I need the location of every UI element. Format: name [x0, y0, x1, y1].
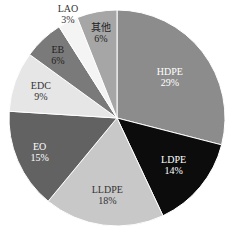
slice-percent: 6%: [51, 55, 64, 66]
slice-percent: 18%: [98, 195, 116, 206]
slice-label: 其他: [91, 21, 111, 33]
slice-label: EB: [52, 44, 65, 55]
slice-label: LDPE: [161, 154, 186, 165]
slice-percent: 15%: [31, 152, 49, 163]
slice-percent: 3%: [61, 14, 74, 25]
slice-label: LAO: [58, 3, 79, 14]
slice-label: LLDPE: [92, 184, 123, 195]
pie-chart: HDPE29%LDPE14%LLDPE18%EO15%EDC9%EB6%LAO3…: [0, 0, 234, 233]
slice-label: HDPE: [157, 66, 183, 77]
slice-percent: 14%: [164, 165, 182, 176]
slice-label: EO: [33, 141, 46, 152]
slice-label: EDC: [31, 80, 51, 91]
slice-percent: 6%: [94, 33, 107, 44]
slice-percent: 29%: [161, 77, 179, 88]
slice-percent: 9%: [34, 91, 47, 102]
